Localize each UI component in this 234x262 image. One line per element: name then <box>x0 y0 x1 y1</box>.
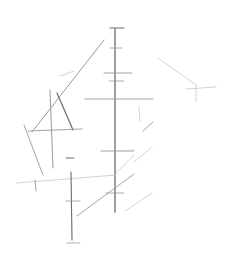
line-sketch-drawing <box>0 0 234 262</box>
pencil-sketch-canvas <box>0 0 234 262</box>
